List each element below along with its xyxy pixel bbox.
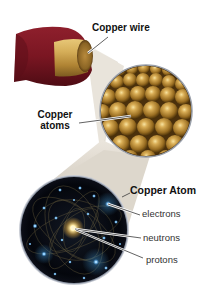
label-copper-atoms-line2: atoms (36, 120, 74, 131)
copper-atom-diagram: Copper wire Copper atoms Copper Atom ele… (0, 0, 208, 307)
label-copper-wire: Copper wire (92, 22, 150, 33)
label-copper-atom: Copper Atom (130, 185, 196, 196)
label-protons: protons (146, 254, 178, 265)
copper-atom-model (19, 175, 129, 285)
label-copper-atoms: Copper atoms (36, 109, 74, 131)
label-copper-atoms-line1: Copper (36, 109, 74, 120)
label-neutrons: neutrons (143, 232, 180, 243)
label-electrons: electrons (142, 208, 181, 219)
wire-copper-core (54, 39, 93, 77)
